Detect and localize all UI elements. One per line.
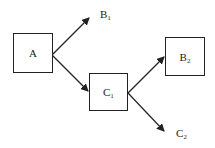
arrow-c1-to-c2 [128, 93, 164, 131]
arrow-c1-to-b2 [128, 57, 164, 93]
node-a: A [13, 33, 53, 73]
node-c1-label: C₁ [103, 86, 114, 98]
label-c2: C₂ [176, 127, 187, 139]
node-b2: B₂ [165, 37, 205, 76]
node-c1: C₁ [89, 73, 128, 111]
arrow-a-to-c1 [52, 55, 88, 91]
node-b2-label: B₂ [179, 51, 190, 63]
label-b1: B₁ [100, 8, 111, 20]
arrow-a-to-b1 [52, 18, 89, 55]
node-a-label: A [29, 47, 37, 59]
